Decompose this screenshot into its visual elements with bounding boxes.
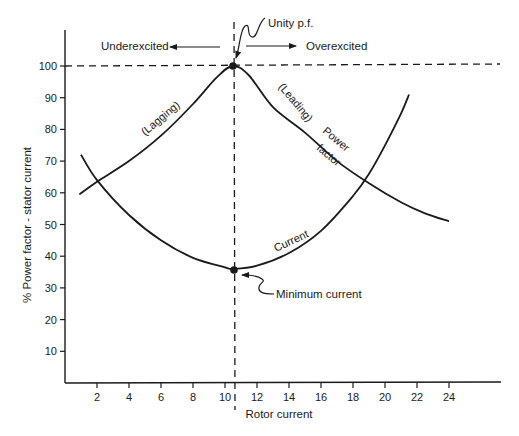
y-ticks: 102030405060708090100 [39,60,65,357]
minimum-current-marker [230,266,238,274]
x-axis [65,382,501,383]
y-tick-label: 60 [45,187,57,199]
underexcited-label: Underexcited [101,40,169,52]
y-tick-label: 100 [39,60,57,72]
y-axis-title: % Power factor - stator current [21,146,33,303]
y-tick-label: 20 [45,314,57,326]
x-tick-label: 20 [379,391,391,403]
x-tick-label: 10 [219,391,231,403]
unity-pf-label: Unity p.f. [268,17,313,29]
x-tick-label: 2 [94,391,100,403]
y-tick-label: 70 [45,155,57,167]
y-tick-label: 30 [45,282,57,294]
unity-vertical-dashed-line [234,22,235,410]
x-tick-label: 4 [126,391,132,403]
power-factor-curve [79,66,449,221]
x-tick-label: 6 [158,391,164,403]
minimum-current-callout-arrow-icon [242,275,274,294]
x-tick-label: 14 [283,391,295,403]
unity-pf-callout-arrow-icon [236,18,265,58]
x-tick-label: 22 [411,391,423,403]
chart: 102030405060708090100 246810121416182022… [0,0,519,436]
y-tick-label: 10 [45,345,57,357]
y-tick-label: 80 [45,123,57,135]
y-tick-label: 50 [45,219,57,231]
x-tick-label: 16 [315,391,327,403]
y-tick-label: 40 [45,250,57,262]
x-tick-label: 12 [251,391,263,403]
y-tick-label: 90 [45,92,57,104]
unity-horizontal-dashed-line [65,64,500,66]
x-tick-label: 8 [190,391,196,403]
x-tick-label: 24 [443,391,455,403]
unity-pf-marker [229,62,237,70]
overexcited-label: Overexcited [306,40,367,52]
x-axis-title: Rotor current [245,408,313,420]
minimum-current-label: Minimum current [276,288,362,300]
leading-label: (Leading) [276,81,315,124]
x-tick-label: 18 [347,391,359,403]
x-ticks: 24681012141618202224 [94,383,455,403]
current-label: Current [272,227,310,253]
current-curve [81,95,409,269]
lagging-label: (Lagging) [139,98,182,137]
